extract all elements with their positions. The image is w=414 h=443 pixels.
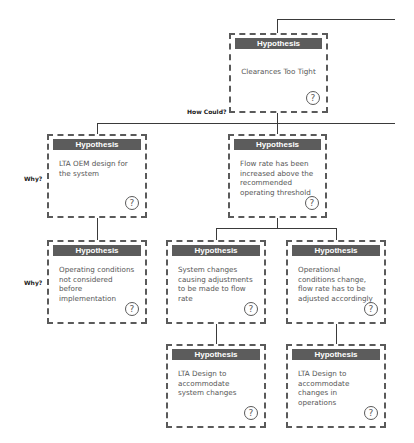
question-circle-icon[interactable]: ? (364, 406, 378, 420)
hypothesis-text: Operating conditions not considered befo… (59, 265, 137, 303)
hypothesis-header: Hypothesis (235, 38, 322, 49)
connector-lower-left-down (216, 323, 217, 345)
question-circle-icon[interactable]: ? (125, 302, 139, 316)
connector-top-vertical (277, 19, 278, 34)
hypothesis-header: Hypothesis (53, 139, 141, 150)
question-circle-icon[interactable]: ? (364, 302, 378, 316)
hypothesis-node-operating-conditions[interactable]: Hypothesis Operating conditions not cons… (47, 240, 147, 324)
connector-lower-right-down (336, 323, 337, 345)
how-could-label: How Could? (187, 108, 226, 115)
hypothesis-node-operational-conditions[interactable]: Hypothesis Operational conditions change… (286, 240, 386, 324)
hypothesis-node-system-changes[interactable]: Hypothesis System changes causing adjust… (166, 240, 266, 324)
hypothesis-node-lta-oem[interactable]: Hypothesis LTA OEM design for the system… (47, 134, 147, 218)
connector-mid-down (277, 217, 278, 228)
connector-mid-split (216, 228, 337, 229)
question-circle-icon[interactable]: ? (306, 91, 320, 105)
hypothesis-text: LTA Design to accommodate changes in ope… (298, 369, 376, 407)
hypothesis-header: Hypothesis (53, 245, 141, 256)
hypothesis-header: Hypothesis (234, 139, 321, 150)
hypothesis-text: Operational conditions change, flow rate… (298, 265, 376, 303)
hypothesis-text: LTA OEM design for the system (59, 159, 137, 178)
hypothesis-node-clearances[interactable]: Hypothesis Clearances Too Tight ? (229, 33, 328, 113)
hypothesis-text: Clearances Too Tight (235, 67, 322, 77)
why-label-1: Why? (24, 175, 42, 182)
hypothesis-header: Hypothesis (292, 245, 380, 256)
hypothesis-header: Hypothesis (172, 245, 260, 256)
question-circle-icon[interactable]: ? (244, 406, 258, 420)
hypothesis-header: Hypothesis (292, 349, 380, 360)
question-circle-icon[interactable]: ? (125, 196, 139, 210)
connector-top-horizontal (277, 19, 395, 20)
hypothesis-text: LTA Design to accommodate system changes (178, 369, 256, 398)
hypothesis-text: Flow rate has been increased above the r… (240, 159, 317, 197)
hypothesis-node-lta-design-system[interactable]: Hypothesis LTA Design to accommodate sys… (166, 344, 266, 428)
hypothesis-header: Hypothesis (172, 349, 260, 360)
hypothesis-node-lta-design-operations[interactable]: Hypothesis LTA Design to accommodate cha… (286, 344, 386, 428)
hypothesis-text: System changes causing adjustments to be… (178, 265, 256, 303)
question-circle-icon[interactable]: ? (244, 302, 258, 316)
question-circle-icon[interactable]: ? (305, 196, 319, 210)
connector-left-down (97, 217, 98, 241)
why-label-2: Why? (24, 279, 42, 286)
hypothesis-node-flow-rate[interactable]: Hypothesis Flow rate has been increased … (228, 134, 327, 218)
connector-level1-horizontal (97, 123, 395, 124)
